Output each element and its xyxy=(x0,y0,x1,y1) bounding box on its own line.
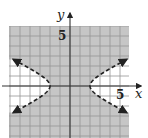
x-tick-label-5: 5 xyxy=(116,88,124,102)
y-axis-label: y xyxy=(56,7,65,22)
hyperbola-inequality-graph: y 5 x 5 xyxy=(0,0,148,138)
x-axis-label: x xyxy=(135,86,143,101)
shaded-region xyxy=(0,26,148,138)
y-tick-label-5: 5 xyxy=(58,29,66,43)
